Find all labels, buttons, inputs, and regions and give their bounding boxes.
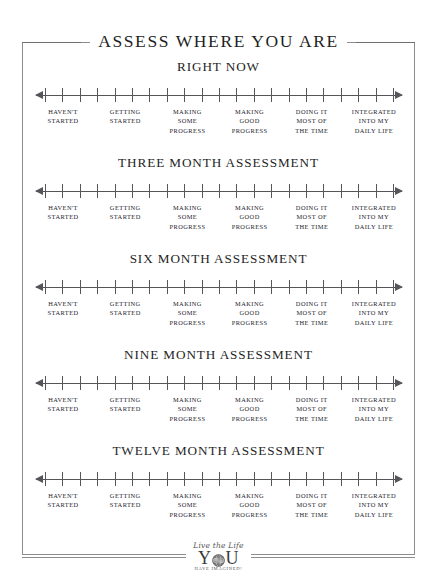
scale-anchor-label-line: GOOD — [219, 212, 281, 221]
scale-tick — [236, 376, 237, 390]
scale-anchor-label-line: MAKING — [156, 107, 218, 116]
scale-tick — [115, 472, 116, 486]
scale-tick — [132, 88, 133, 102]
scale-anchor-label-line: HAVEN'T — [32, 491, 94, 500]
scale-tick — [254, 472, 255, 486]
scale-anchor-label-line: PROGRESS — [156, 414, 218, 423]
scale-tick — [184, 88, 185, 102]
scale-anchor-label: INTEGRATEDINTO MYDAILY LIFE — [343, 299, 405, 327]
scale-anchor-label-line: PROGRESS — [219, 126, 281, 135]
scale-anchor-labels: HAVEN'TSTARTEDGETTINGSTARTEDMAKINGSOMEPR… — [32, 299, 405, 327]
scale-ticks — [45, 184, 393, 198]
scale-tick — [219, 184, 220, 198]
scale-tick — [271, 376, 272, 390]
scale-tick — [393, 280, 394, 294]
rating-scale[interactable] — [36, 276, 402, 293]
scale-tick — [323, 472, 324, 486]
scale-tick — [323, 184, 324, 198]
rating-scale[interactable] — [36, 372, 402, 389]
scale-anchor-label: MAKINGSOMEPROGRESS — [156, 107, 218, 135]
scale-anchor-label-line: MOST OF — [281, 500, 343, 509]
scale-anchor-label-line: MAKING — [219, 203, 281, 212]
scale-anchor-labels: HAVEN'TSTARTEDGETTINGSTARTEDMAKINGSOMEPR… — [32, 203, 405, 231]
scale-anchor-label-line: MAKING — [219, 107, 281, 116]
scale-anchor-label-line: GETTING — [94, 107, 156, 116]
scale-tick — [97, 376, 98, 390]
scale-tick — [115, 280, 116, 294]
scale-anchor-label-line: PROGRESS — [219, 318, 281, 327]
scale-tick — [45, 376, 46, 390]
scale-anchor-label-line: MAKING — [156, 203, 218, 212]
scale-tick — [167, 280, 168, 294]
scale-anchor-label: HAVEN'TSTARTED — [32, 107, 94, 135]
assessment-section: THREE MONTH ASSESSMENT HAVEN'TSTARTEDGET… — [30, 156, 407, 252]
right-arrow-icon — [395, 379, 403, 387]
assessment-section: SIX MONTH ASSESSMENT HAVEN'TSTARTEDGETTI… — [30, 252, 407, 348]
scale-tick — [376, 472, 377, 486]
scale-ticks — [45, 280, 393, 294]
scale-tick — [149, 280, 150, 294]
scale-anchor-label-line: THE TIME — [281, 126, 343, 135]
scale-anchor-label-line: MOST OF — [281, 404, 343, 413]
rating-scale[interactable] — [36, 468, 402, 485]
scale-tick — [149, 472, 150, 486]
scale-anchor-label-line: STARTED — [32, 308, 94, 317]
rating-scale[interactable] — [36, 180, 402, 197]
section-heading: SIX MONTH ASSESSMENT — [30, 252, 407, 265]
scale-anchor-label: INTEGRATEDINTO MYDAILY LIFE — [343, 107, 405, 135]
section-heading: RIGHT NOW — [30, 60, 407, 73]
scale-anchor-label-line: INTEGRATED — [343, 299, 405, 308]
scale-anchor-label-line: DAILY LIFE — [343, 318, 405, 327]
left-arrow-icon — [35, 379, 43, 387]
scale-anchor-label-line: GETTING — [94, 203, 156, 212]
scale-tick — [115, 376, 116, 390]
scale-anchor-label-line: PROGRESS — [156, 222, 218, 231]
scale-anchor-label: INTEGRATEDINTO MYDAILY LIFE — [343, 491, 405, 519]
scale-anchor-label: MAKINGSOMEPROGRESS — [156, 299, 218, 327]
rating-scale[interactable] — [36, 84, 402, 101]
scale-tick — [80, 472, 81, 486]
scale-anchor-label-line: SOME — [156, 116, 218, 125]
scale-tick — [132, 184, 133, 198]
scale-tick — [80, 184, 81, 198]
assessment-section: TWELVE MONTH ASSESSMENT HAVEN'TSTARTEDGE… — [30, 444, 407, 540]
scale-tick — [62, 184, 63, 198]
scale-tick — [115, 184, 116, 198]
scale-tick — [236, 88, 237, 102]
scale-tick — [306, 376, 307, 390]
scale-tick — [115, 88, 116, 102]
scale-tick — [132, 472, 133, 486]
scale-anchor-label-line: INTEGRATED — [343, 203, 405, 212]
scale-anchor-label-line: DAILY LIFE — [343, 414, 405, 423]
scale-tick — [306, 184, 307, 198]
scale-tick — [393, 472, 394, 486]
scale-tick — [254, 184, 255, 198]
scale-tick — [271, 184, 272, 198]
scale-anchor-label-line: GETTING — [94, 299, 156, 308]
scale-anchor-label-line: DOING IT — [281, 299, 343, 308]
scale-anchor-label-line: PROGRESS — [156, 510, 218, 519]
scale-anchor-label-line: PROGRESS — [219, 414, 281, 423]
scale-tick — [358, 280, 359, 294]
scale-anchor-label: MAKINGSOMEPROGRESS — [156, 203, 218, 231]
scale-anchor-label-line: GOOD — [219, 308, 281, 317]
right-arrow-icon — [395, 91, 403, 99]
scale-anchor-label-line: SOME — [156, 404, 218, 413]
scale-tick — [376, 88, 377, 102]
scale-anchor-label-line: HAVEN'T — [32, 395, 94, 404]
scale-tick — [236, 280, 237, 294]
scale-tick — [341, 280, 342, 294]
scale-tick — [358, 376, 359, 390]
scale-anchor-label-line: INTO MY — [343, 308, 405, 317]
scale-tick — [271, 280, 272, 294]
scale-tick — [289, 472, 290, 486]
scale-anchor-label-line: SOME — [156, 308, 218, 317]
right-arrow-icon — [395, 187, 403, 195]
scale-tick — [97, 88, 98, 102]
scale-tick — [97, 472, 98, 486]
scale-anchor-labels: HAVEN'TSTARTEDGETTINGSTARTEDMAKINGSOMEPR… — [32, 491, 405, 519]
scale-tick — [323, 88, 324, 102]
scale-anchor-label-line: MAKING — [219, 395, 281, 404]
scale-tick — [97, 184, 98, 198]
scale-ticks — [45, 376, 393, 390]
